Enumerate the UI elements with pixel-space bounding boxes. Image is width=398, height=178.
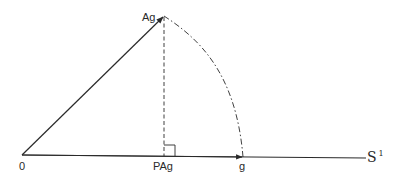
ag-label: Ag — [142, 12, 155, 23]
rotation-arc-dashed — [164, 16, 243, 157]
vector-g-arrow — [22, 155, 242, 157]
s1-symbol: S — [367, 149, 377, 165]
projection-diagram — [0, 0, 398, 178]
g-label: g — [239, 161, 245, 172]
s1-space-label: S1 — [367, 150, 384, 164]
s1-superscript: 1 — [379, 149, 384, 158]
pag-label: PAg — [153, 161, 173, 172]
vector-ag-arrow — [22, 17, 163, 155]
right-angle-marker — [164, 145, 175, 156]
origin-label: 0 — [19, 161, 25, 172]
